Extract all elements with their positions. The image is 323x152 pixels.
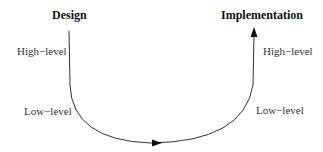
design-descent-curve bbox=[69, 31, 150, 143]
up-arrow-icon bbox=[251, 27, 258, 37]
u-curve-diagram bbox=[0, 0, 323, 152]
flow-arrow-icon bbox=[152, 140, 162, 147]
implementation-ascent-curve bbox=[150, 35, 254, 143]
